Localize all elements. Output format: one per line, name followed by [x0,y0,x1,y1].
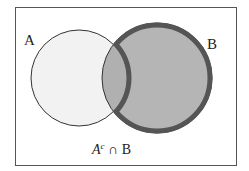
caption: Ac ∩ B [91,141,131,157]
set-b-label: B [207,36,217,52]
set-a-label: A [24,32,35,48]
venn-diagram: A B Ac ∩ B [0,0,249,171]
